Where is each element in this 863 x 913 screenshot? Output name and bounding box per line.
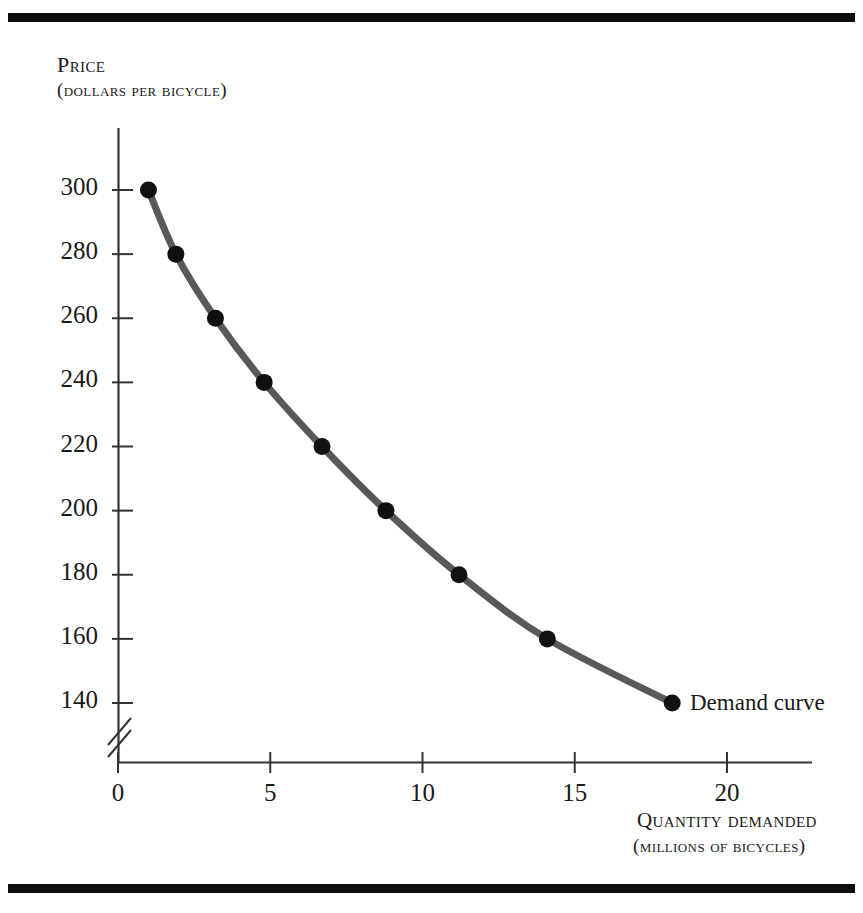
y-tick-label: 160 xyxy=(38,622,98,650)
data-point xyxy=(167,246,184,263)
y-tick-label: 260 xyxy=(38,301,98,329)
data-point xyxy=(140,182,157,199)
y-tick-label: 220 xyxy=(38,430,98,458)
data-point xyxy=(256,374,273,391)
data-point xyxy=(207,310,224,327)
y-tick-label: 140 xyxy=(38,686,98,714)
data-point xyxy=(377,502,394,519)
y-tick-label: 180 xyxy=(38,558,98,586)
data-point xyxy=(539,630,556,647)
x-tick-label: 15 xyxy=(555,779,595,807)
y-tick-label: 200 xyxy=(38,494,98,522)
y-tick-label: 300 xyxy=(38,173,98,201)
axis-lines xyxy=(118,128,812,763)
x-tick-label: 5 xyxy=(250,779,290,807)
data-point xyxy=(451,566,468,583)
data-point xyxy=(664,695,681,712)
plot-area xyxy=(0,0,863,913)
y-axis-ticks xyxy=(112,190,133,703)
y-tick-label: 280 xyxy=(38,237,98,265)
x-tick-label: 0 xyxy=(98,779,138,807)
data-point xyxy=(314,438,331,455)
demand-curve-figure: Price (dollars per bicycle) Quantity dem… xyxy=(0,0,863,913)
x-tick-label: 20 xyxy=(707,779,747,807)
y-tick-label: 240 xyxy=(38,365,98,393)
x-tick-label: 10 xyxy=(403,779,443,807)
data-point-group xyxy=(140,182,681,712)
demand-curve-path xyxy=(148,190,672,703)
